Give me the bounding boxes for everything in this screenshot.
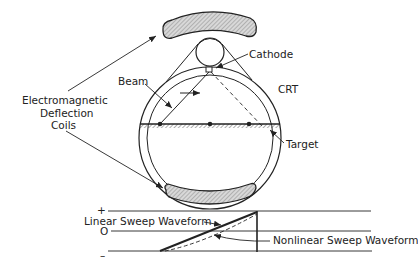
cathode-label: Cathode — [249, 48, 293, 60]
target-dot-center — [208, 122, 213, 127]
waveform-minus-label: – — [100, 249, 105, 261]
target-leader — [270, 130, 284, 143]
nonlinear-sweep-leader — [214, 235, 270, 241]
crt-label: CRT — [278, 83, 299, 95]
target-dot-right — [247, 122, 252, 127]
crt-outer-circle — [139, 67, 281, 209]
top-deflection-coil — [163, 12, 256, 38]
nonlinear-sweep-label: Nonlinear Sweep Waveform — [273, 234, 418, 246]
beam-leader — [145, 84, 172, 108]
coils-label-line1: Electromagnetic — [22, 94, 108, 106]
target-label: Target — [285, 138, 318, 150]
coil-leader-bottom — [66, 131, 163, 188]
crt-inner-circle — [147, 75, 273, 201]
beam-label: Beam — [118, 75, 148, 87]
neck-line-right — [222, 44, 252, 80]
beam-dashed-line — [211, 72, 262, 126]
coils-label-line2: Deflection — [40, 107, 94, 119]
linear-sweep-label: Linear Sweep Waveform — [84, 215, 211, 227]
coils-label-line3: Coils — [51, 119, 76, 131]
crt-deflection-diagram: Electromagnetic Deflection Coils Beam Ca… — [0, 0, 418, 268]
neck-line-left — [166, 44, 198, 82]
electron-gun-cap — [199, 39, 221, 44]
cathode-square — [206, 67, 212, 72]
